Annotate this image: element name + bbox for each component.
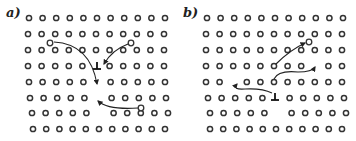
lattice-atom <box>300 15 305 20</box>
panel-b-lattice <box>203 15 348 131</box>
lattice-atom <box>27 95 32 100</box>
lattice-atom <box>299 31 304 36</box>
lattice-atom <box>135 15 140 20</box>
lattice-atom <box>273 126 278 131</box>
lattice-atom <box>39 63 44 68</box>
lattice-atom <box>135 79 140 84</box>
lattice-atom <box>163 95 168 100</box>
lattice-atom <box>301 95 306 100</box>
lattice-atom <box>70 126 75 131</box>
lattice-atom <box>25 63 30 68</box>
lattice-atom <box>53 47 58 52</box>
lattice-atom <box>121 31 126 36</box>
panel-a: a) <box>6 5 171 132</box>
panel-a-lattice <box>25 15 170 131</box>
lattice-atom <box>39 31 44 36</box>
lattice-atom <box>300 126 305 131</box>
lattice-atom <box>246 95 251 100</box>
lattice-atom <box>152 110 157 115</box>
lattice-atom <box>244 63 249 68</box>
lattice-atom <box>219 95 224 100</box>
lattice-atom <box>203 31 208 36</box>
lattice-atom <box>207 126 212 131</box>
lattice-atom <box>339 31 344 36</box>
lattice-atom <box>287 95 292 100</box>
lattice-atom <box>245 15 250 20</box>
migration-arrow <box>236 84 272 93</box>
lattice-atom <box>339 126 344 131</box>
lattice-atom <box>339 63 344 68</box>
lattice-atom <box>285 63 290 68</box>
lattice-atom <box>54 15 59 20</box>
lattice-atom <box>67 79 72 84</box>
lattice-atom <box>205 95 210 100</box>
migration-arrow <box>54 42 97 84</box>
lattice-atom <box>271 31 276 36</box>
lattice-atom <box>258 79 263 84</box>
lattice-atom <box>247 126 252 131</box>
lattice-atom <box>134 63 139 68</box>
lattice-atom <box>107 31 112 36</box>
lattice-atom <box>121 47 126 52</box>
lattice-atom <box>53 31 58 36</box>
lattice-atom <box>39 47 44 52</box>
lattice-atom <box>110 126 115 131</box>
lattice-atom <box>80 31 85 36</box>
lattice-atom <box>231 63 236 68</box>
panel-a-annotations <box>47 40 144 111</box>
lattice-atom <box>217 63 222 68</box>
lattice-atom <box>221 110 226 115</box>
lattice-atom <box>231 31 236 36</box>
lattice-atom <box>136 126 141 131</box>
lattice-atom <box>161 31 166 36</box>
lattice-atom <box>121 63 126 68</box>
lattice-atom <box>204 15 209 20</box>
lattice-atom <box>83 126 88 131</box>
lattice-atom <box>54 79 59 84</box>
lattice-atom <box>108 15 113 20</box>
lattice-atom <box>29 110 34 115</box>
lattice-atom <box>316 110 321 115</box>
migration-arrow <box>274 67 315 79</box>
lattice-atom <box>161 47 166 52</box>
lattice-atom <box>161 63 166 68</box>
lattice-atom <box>41 95 46 100</box>
lattice-atom <box>232 15 237 20</box>
lattice-atom <box>327 15 332 20</box>
lattice-atom <box>122 79 127 84</box>
lattice-atom <box>340 15 345 20</box>
lattice-atom <box>341 95 346 100</box>
lattice-atom <box>313 126 318 131</box>
lattice-atom <box>285 31 290 36</box>
lattice-atom <box>260 126 265 131</box>
lattice-atom <box>57 110 62 115</box>
interstitial-atom <box>306 39 312 45</box>
lattice-atom <box>326 47 331 52</box>
lattice-atom <box>111 110 116 115</box>
lattice-atom <box>162 79 167 84</box>
lattice-atom <box>271 47 276 52</box>
lattice-atom <box>326 79 331 84</box>
lattice-atom <box>162 15 167 20</box>
lattice-atom <box>248 110 253 115</box>
lattice-atom <box>330 110 335 115</box>
lattice-atom <box>149 79 154 84</box>
interstitial-atom <box>138 105 144 111</box>
lattice-atom <box>80 63 85 68</box>
lattice-atom <box>203 47 208 52</box>
lattice-atom <box>136 95 141 100</box>
lattice-atom <box>312 47 317 52</box>
lattice-atom <box>299 63 304 68</box>
lattice-atom <box>207 110 212 115</box>
lattice-atom <box>313 15 318 20</box>
lattice-atom <box>107 47 112 52</box>
lattice-atom <box>162 126 167 131</box>
lattice-atom <box>289 110 294 115</box>
lattice-atom <box>165 110 170 115</box>
lattice-atom <box>66 47 71 52</box>
lattice-atom <box>149 15 154 20</box>
lattice-atom <box>148 47 153 52</box>
lattice-atom <box>93 47 98 52</box>
lattice-atom <box>67 15 72 20</box>
lattice-atom <box>148 63 153 68</box>
